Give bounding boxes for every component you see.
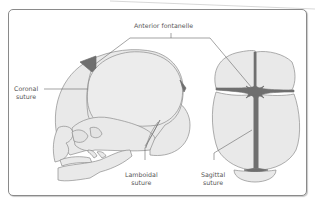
label-sagittal-line2: suture <box>201 179 225 187</box>
label-coronal-line1: Coronal <box>14 85 38 93</box>
label-coronal-line2: suture <box>14 93 38 101</box>
skull-diagram <box>0 0 317 211</box>
label-coronal-suture: Coronal suture <box>14 85 38 101</box>
label-sagittal-suture: Sagittal suture <box>201 171 225 187</box>
lateral-skull <box>53 50 190 181</box>
label-lamboidal-suture: Lamboidal suture <box>125 171 158 187</box>
label-lamboidal-line1: Lamboidal <box>125 171 158 179</box>
label-anterior-fontanelle: Anterior fontanelle <box>134 22 193 30</box>
label-sagittal-line1: Sagittal <box>201 171 225 179</box>
label-lamboidal-line2: suture <box>125 179 158 187</box>
superior-skull <box>212 51 299 183</box>
